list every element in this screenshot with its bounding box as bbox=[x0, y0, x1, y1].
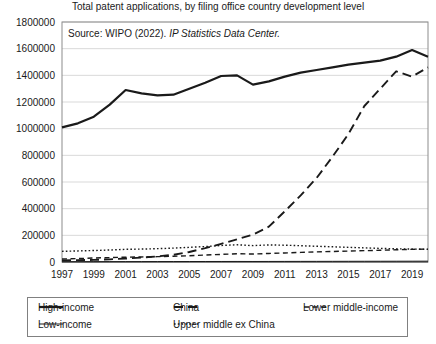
y-axis-tick-label: 600000 bbox=[22, 177, 56, 188]
x-axis-tick-label: 2011 bbox=[274, 269, 296, 280]
legend-swatch bbox=[173, 302, 199, 312]
legend-swatch bbox=[38, 302, 64, 312]
x-axis-tick-label: 2017 bbox=[369, 269, 392, 280]
x-axis-tick-label: 2019 bbox=[401, 269, 424, 280]
series-line-low-income bbox=[62, 261, 428, 262]
x-axis-tick-label: 2009 bbox=[242, 269, 265, 280]
y-axis-tick-label: 1800000 bbox=[16, 17, 55, 28]
series-line-high-income bbox=[62, 50, 428, 127]
chart-figure: Total patent applications, by filing off… bbox=[0, 0, 436, 344]
x-axis-tick-label: 2005 bbox=[178, 269, 201, 280]
line-chart-canvas: 0200000400000600000800000100000012000001… bbox=[0, 0, 436, 290]
source-note: Source: WIPO (2022). IP Statistics Data … bbox=[68, 28, 280, 39]
legend-item-china[interactable]: China bbox=[173, 302, 199, 313]
chart-legend: High-incomeChinaLower middle-incomeLow-i… bbox=[27, 297, 408, 337]
legend-item-lower-middle-income[interactable]: Lower middle-income bbox=[303, 302, 398, 313]
series-line-lower-middle-income bbox=[62, 249, 428, 259]
series-line-china bbox=[62, 67, 428, 260]
y-axis-tick-label: 1000000 bbox=[16, 123, 55, 134]
legend-swatch bbox=[38, 319, 64, 329]
x-axis-tick-label: 2001 bbox=[115, 269, 138, 280]
plot-frame bbox=[62, 22, 428, 262]
y-axis-tick-label: 1600000 bbox=[16, 43, 55, 54]
x-axis-tick-label: 2013 bbox=[305, 269, 328, 280]
legend-swatch bbox=[173, 319, 199, 329]
x-axis-tick-label: 2015 bbox=[337, 269, 360, 280]
legend-item-high-income[interactable]: High-income bbox=[38, 302, 94, 313]
y-axis-tick-label: 400000 bbox=[22, 203, 56, 214]
source-note-plain: Source: WIPO (2022). bbox=[68, 28, 169, 39]
legend-items: High-incomeChinaLower middle-incomeLow-i… bbox=[28, 298, 407, 336]
y-axis-tick-label: 1200000 bbox=[16, 97, 55, 108]
legend-swatch bbox=[303, 302, 329, 312]
y-axis-tick-label: 1400000 bbox=[16, 70, 55, 81]
y-axis-tick-label: 0 bbox=[49, 257, 55, 268]
x-axis-tick-label: 2003 bbox=[146, 269, 169, 280]
legend-item-low-income[interactable]: Low-income bbox=[38, 319, 92, 330]
x-axis-tick-label: 2007 bbox=[210, 269, 233, 280]
y-axis-tick-label: 800000 bbox=[22, 150, 56, 161]
x-axis-tick-label: 1999 bbox=[83, 269, 106, 280]
source-note-italic: IP Statistics Data Center. bbox=[169, 28, 280, 39]
series-line-upper-middle-ex-china bbox=[62, 245, 428, 252]
x-axis-tick-label: 1997 bbox=[51, 269, 74, 280]
y-axis-tick-label: 200000 bbox=[22, 230, 56, 241]
legend-item-upper-middle-ex-china[interactable]: Upper middle ex China bbox=[173, 319, 275, 330]
